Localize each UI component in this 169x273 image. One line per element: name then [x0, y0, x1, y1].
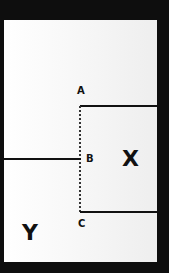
point-label-c: C — [78, 219, 85, 229]
region-label-x: X — [122, 148, 139, 170]
line-left-b — [4, 158, 81, 160]
region-label-y: Y — [22, 222, 38, 244]
point-label-b: B — [86, 154, 94, 164]
line-c-right — [80, 211, 157, 213]
point-label-a: A — [77, 86, 85, 96]
line-a-right — [80, 105, 157, 107]
diagram-frame: A B C X Y — [0, 0, 169, 273]
